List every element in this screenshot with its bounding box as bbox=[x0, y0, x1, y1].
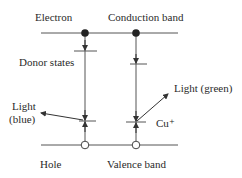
conduction-band-label: Conduction band bbox=[108, 11, 183, 23]
cu-plus-label: Cu⁺ bbox=[156, 117, 175, 129]
hole-circle-right bbox=[132, 141, 140, 149]
electron-label: Electron bbox=[35, 11, 72, 23]
light-green-label: Light (green) bbox=[174, 82, 232, 94]
electron-dot-left bbox=[81, 29, 89, 37]
hole-label: Hole bbox=[40, 158, 61, 170]
donor-states-label: Donor states bbox=[19, 56, 74, 68]
blue-light-arrow bbox=[41, 113, 83, 120]
valence-band-label: Valence band bbox=[107, 158, 166, 170]
light-blue-label-line2: (blue) bbox=[9, 113, 35, 125]
light-blue-label-line1: Light bbox=[12, 100, 36, 112]
electron-dot-right bbox=[132, 29, 140, 37]
energy-band-diagram: Electron Conduction band Donor states Li… bbox=[0, 0, 242, 178]
hole-circle-left bbox=[81, 141, 89, 149]
